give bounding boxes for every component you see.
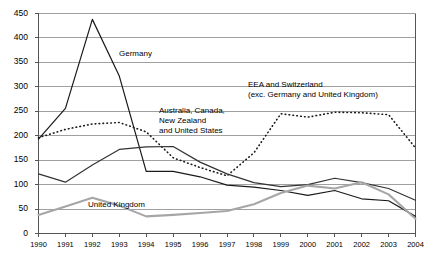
x-axis-tick-label: 2002 bbox=[347, 240, 377, 249]
y-axis-tick-label: 350 bbox=[4, 57, 28, 66]
x-axis-tick-label: 1997 bbox=[212, 240, 242, 249]
series-line bbox=[39, 112, 416, 176]
acnzus-label-line3: and United States bbox=[159, 126, 223, 136]
x-axis-tick-label: 1992 bbox=[77, 240, 107, 249]
x-axis-tick-label: 2003 bbox=[374, 240, 404, 249]
gridlines bbox=[39, 14, 416, 210]
y-axis-tick-label: 150 bbox=[4, 155, 28, 164]
series-line bbox=[39, 146, 416, 200]
y-axis-tick-label: 400 bbox=[4, 33, 28, 42]
y-axis-tick-label: 200 bbox=[4, 131, 28, 140]
series-line bbox=[39, 19, 416, 216]
acnzus-label-line2: New Zealand bbox=[159, 116, 206, 126]
x-axis-tick-label: 1999 bbox=[266, 240, 296, 249]
x-axis-tick-label: 2001 bbox=[320, 240, 350, 249]
acnzus-label-line1: Australia, Canada, bbox=[159, 106, 225, 116]
x-axis-tick-label: 1994 bbox=[131, 240, 161, 249]
y-axis-tick-label: 100 bbox=[4, 180, 28, 189]
y-axis-tick-label: 450 bbox=[4, 9, 28, 18]
data-series-group bbox=[39, 19, 416, 218]
y-axis-tick-label: 300 bbox=[4, 82, 28, 91]
x-axis-tick-label: 1993 bbox=[104, 240, 134, 249]
x-axis-tick-label: 1995 bbox=[158, 240, 188, 249]
y-axis-tick-label: 0 bbox=[4, 229, 28, 238]
uk-label: United Kingdom bbox=[88, 200, 145, 210]
x-axis-tick-label: 1998 bbox=[239, 240, 269, 249]
y-axis-tick-label: 250 bbox=[4, 106, 28, 115]
line-chart: 050100150200250300350400450 199019911992… bbox=[0, 0, 432, 265]
eea-label-line2: (exc. Germany and United Kingdom) bbox=[248, 90, 378, 100]
x-axis-tick-label: 1990 bbox=[24, 240, 54, 249]
eea-label-line1: EEA and Switzerland bbox=[248, 80, 323, 90]
y-axis-tick-label: 50 bbox=[4, 204, 28, 213]
germany-label: Germany bbox=[119, 49, 152, 59]
x-axis-tick-label: 2004 bbox=[401, 240, 431, 249]
x-axis-tick-label: 2000 bbox=[293, 240, 323, 249]
x-axis-tick-label: 1991 bbox=[50, 240, 80, 249]
x-axis-tick-label: 1996 bbox=[185, 240, 215, 249]
